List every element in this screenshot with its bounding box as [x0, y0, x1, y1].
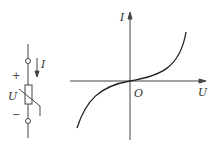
plus-sign: + — [12, 70, 20, 81]
origin-label: O — [134, 87, 143, 100]
iu-chart — [70, 12, 206, 140]
iu-curve — [77, 32, 186, 128]
x-axis-label: U — [198, 86, 208, 99]
current-arrowhead — [35, 71, 39, 77]
voltage-label: U — [8, 90, 18, 103]
y-axis-arrow-icon — [128, 12, 132, 19]
diagram-canvas: I U + − I U O — [0, 0, 216, 147]
y-axis-label: I — [119, 11, 125, 24]
varistor-circuit — [19, 44, 40, 138]
minus-sign: − — [12, 109, 20, 120]
x-axis-arrow-icon — [199, 79, 206, 83]
current-label: I — [40, 58, 46, 71]
bottom-terminal — [26, 119, 31, 124]
top-terminal — [26, 59, 31, 64]
